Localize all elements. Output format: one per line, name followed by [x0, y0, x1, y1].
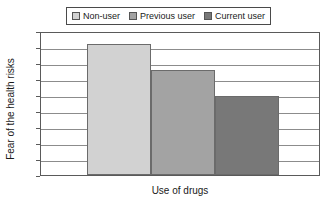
legend-label-previous-user: Previous user [140, 12, 195, 21]
bar-chart-figure: Non-user Previous user Current user 0123… [0, 0, 330, 208]
x-axis-title: Use of drugs [40, 186, 320, 196]
legend-item-non-user: Non-user [72, 12, 120, 21]
chart-legend: Non-user Previous user Current user [66, 7, 271, 25]
bar-non-user [87, 44, 151, 175]
bar-series [41, 33, 319, 175]
bar-current-user [215, 96, 279, 175]
bar-previous-user [151, 70, 215, 175]
legend-item-current-user: Current user [204, 12, 265, 21]
legend-label-non-user: Non-user [83, 12, 120, 21]
y-axis-tick-mark [36, 176, 40, 177]
plot-area [40, 32, 320, 176]
legend-label-current-user: Current user [215, 12, 265, 21]
legend-swatch-current-user [204, 12, 212, 20]
y-axis-title: Fear of the health risks [6, 39, 16, 179]
legend-swatch-previous-user [129, 12, 137, 20]
legend-swatch-non-user [72, 12, 80, 20]
legend-item-previous-user: Previous user [129, 12, 195, 21]
